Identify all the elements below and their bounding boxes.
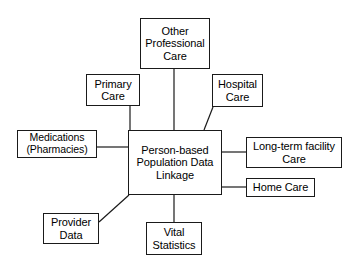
node-hospital-care-label: Hospital Care [213,78,262,103]
node-primary-care: Primary Care [86,74,140,106]
node-provider-data: Provider Data [43,213,99,244]
node-other-professional-care: Other Professional Care [140,18,210,69]
node-other-professional-care-label: Other Professional Care [141,25,209,62]
connector-provider-data [99,195,129,222]
node-medications-label: Medications (Pharmacies) [18,132,96,156]
node-vital-statistics-label: Vital Statistics [147,226,201,251]
node-hospital-care: Hospital Care [212,74,263,107]
node-primary-care-label: Primary Care [87,78,139,103]
node-vital-statistics: Vital Statistics [146,222,202,255]
node-long-term-facility-care-label: Long-term facility Care [247,140,341,165]
node-long-term-facility-care: Long-term facility Care [246,137,342,168]
diagram-canvas: Other Professional Care Primary Care Hos… [0,0,353,267]
node-home-care-label: Home Care [247,181,314,193]
connector-hospital-care [204,107,213,130]
node-home-care: Home Care [246,178,315,197]
node-medications: Medications (Pharmacies) [17,130,97,158]
node-central-label: Person-based Population Data Linkage [129,144,221,181]
node-central-population-data-linkage: Person-based Population Data Linkage [128,130,222,195]
node-provider-data-label: Provider Data [44,216,98,241]
